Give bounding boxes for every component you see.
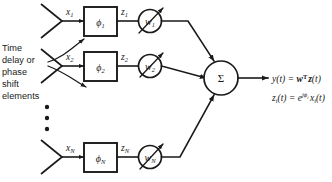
beamformer-svg-canvas: x1 ϕ1 z1 w1 [0,0,332,182]
summation-node: Σ [204,61,268,95]
wire-weight-n-to-summation [162,95,215,157]
equation-output: y(t)=wTz(t) [271,73,321,85]
input-label-n: xN [65,143,75,154]
intermediate-label-n: zN [120,143,130,154]
antenna-element-n-icon [41,140,62,174]
equation-channel: zi(t)=ejϕixi(t) [271,91,325,104]
caption-leader-to-box-2 [48,66,86,87]
input-label-2: x2 [65,52,74,63]
intermediate-label-2: z2 [120,52,129,63]
beamformer-diagram: x1 ϕ1 z1 w1 [0,0,332,182]
summation-symbol: Σ [218,72,224,84]
channel-row-n: xN ϕN zN wN [41,95,214,174]
time-delay-phase-shift-caption: Time delay or phase shift elements [2,39,86,101]
caption-line-4: shift [2,79,19,89]
caption-line-5: elements [2,91,40,101]
ellipsis-dot-2 [45,116,49,120]
wire-weight2-to-summation [162,66,207,78]
equation-channel-text: zi(t)=ejϕixi(t) [271,91,325,104]
antenna-element-1-icon [41,4,62,38]
intermediate-label-1: z1 [120,7,128,18]
equation-output-text: y(t)=wTz(t) [271,73,321,85]
input-label-1: x1 [65,7,73,18]
vertical-ellipsis [45,105,49,131]
ellipsis-dot-1 [45,105,49,109]
caption-line-2: delay or [2,55,35,65]
ellipsis-dot-3 [45,127,49,131]
wire-weight1-to-summation [162,21,215,61]
channel-row-2: x2 ϕ2 z2 w2 [41,49,206,83]
antenna-element-2-icon [41,49,62,83]
caption-line-1: Time [2,43,22,53]
caption-line-3: phase [2,67,27,77]
